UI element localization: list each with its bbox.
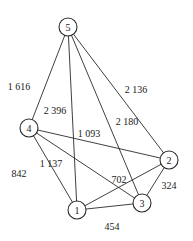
edge-weight-label: 2 396 [44, 105, 67, 116]
edge-5-1 [68, 27, 77, 210]
edge-weight-label: 2 180 [116, 116, 139, 127]
node-label: 1 [75, 205, 80, 216]
edge-1-2 [77, 160, 169, 210]
node-1: 1 [68, 201, 86, 219]
node-5: 5 [59, 18, 77, 36]
node-label: 2 [167, 155, 172, 166]
edge-weight-label: 842 [12, 168, 27, 179]
edge-weight-label: 1 093 [78, 128, 101, 139]
node-4: 4 [20, 119, 38, 137]
node-3: 3 [133, 194, 151, 212]
edges-layer [29, 27, 169, 210]
graph-diagram: 1 6162 3962 1802 1361 0938421 1377023244… [0, 0, 193, 241]
node-label: 3 [140, 198, 145, 209]
nodes-layer: 12345 [20, 18, 178, 219]
edge-weight-label: 1 616 [8, 81, 31, 92]
edge-weight-label: 324 [162, 180, 177, 191]
edge-weight-label: 454 [105, 221, 120, 232]
edge-weight-label: 1 137 [40, 158, 63, 169]
node-label: 5 [66, 22, 71, 33]
edge-4-1 [29, 128, 77, 210]
node-label: 4 [27, 123, 32, 134]
edge-weight-label: 702 [112, 174, 127, 185]
edge-weight-label: 2 136 [125, 84, 148, 95]
node-2: 2 [160, 151, 178, 169]
edge-1-3 [77, 203, 142, 210]
